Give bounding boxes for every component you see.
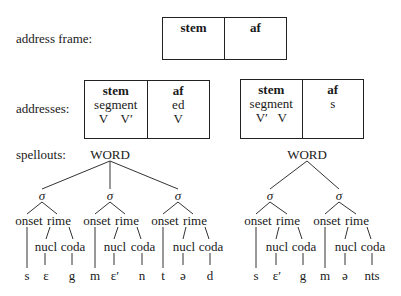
tree1-s1-nucl: nucl [35,239,58,254]
tree1-s2-seg-coda: n [139,268,146,283]
tree1-syllable-3: σ [175,188,182,203]
tree2-s1-coda: coda [292,239,317,254]
tree2-s1-rime: rime [276,213,300,228]
tree2-s1-seg-onset: s [253,268,258,283]
tree2-s2-seg-onset: m [320,268,330,283]
tree2-syllable-2: σ [336,188,343,203]
tree2-root: WORD [287,147,327,162]
tree1-s3-rime: rime [183,213,207,228]
tree1-s2-coda: coda [131,239,156,254]
tree1-s1-rime: rime [47,213,71,228]
tree2-s2-nucl: nucl [335,239,358,254]
tree1-syllable-2: σ [107,188,114,203]
tree2-syllable-1: σ [267,188,274,203]
tree1-s3-onset: onset [151,213,179,228]
tree1-s3-nucl: nucl [173,239,196,254]
tree1-s1-onset: onset [15,213,43,228]
tree2-s2-seg-coda: nts [364,268,379,283]
tree1-s2-nucl: nucl [104,239,127,254]
tree1-s1-seg-coda: g [69,268,76,283]
tree2-s1-onset: onset [244,213,272,228]
tree2-s2-seg-nucl: ə [342,268,348,283]
tree1-s3-seg-nucl: ə [180,268,186,283]
tree1-s3-seg-onset: t [161,268,165,283]
tree2-s2-rime: rime [345,213,369,228]
tree2-s1-seg-nucl: ɛ′ [273,268,281,283]
tree1-s3-seg-coda: d [207,268,214,283]
tree2-s2-coda: coda [361,239,386,254]
tree1-root: WORD [90,147,130,162]
tree1-s3-coda: coda [199,239,224,254]
tree1-syllable-1: σ [39,188,46,203]
tree2-s1-seg-coda: g [300,268,307,283]
tree1-s2-seg-nucl: ɛ′ [111,268,119,283]
tree1-s2-onset: onset [83,213,111,228]
tree1-s2-seg-onset: m [90,268,100,283]
tree2-s2-onset: onset [313,213,341,228]
tree1-s1-seg-onset: s [24,268,29,283]
tree1-s1-coda: coda [61,239,86,254]
syllable-trees: WORD σ onset rime nucl coda s ɛ g σ onse… [0,0,401,296]
tree1-s1-seg-nucl: ɛ [43,268,49,283]
tree2-s1-nucl: nucl [266,239,289,254]
tree1-s2-rime: rime [115,213,139,228]
